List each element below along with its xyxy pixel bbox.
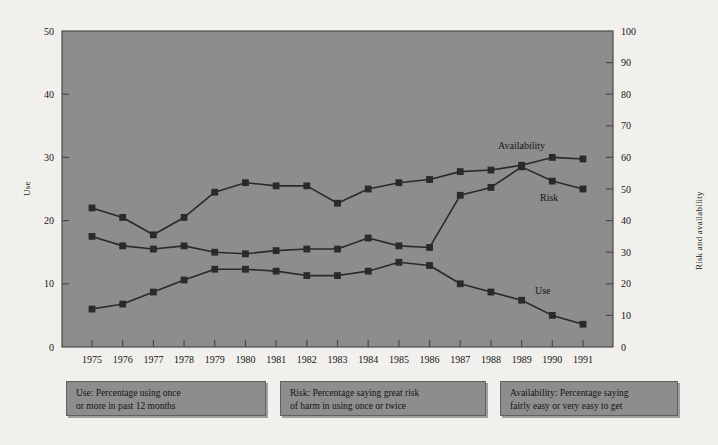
series-label-availability: Availability bbox=[498, 140, 545, 151]
left-axis-title: Use bbox=[22, 181, 32, 196]
svg-text:90: 90 bbox=[621, 57, 631, 68]
chart-figure: 01020304050 0102030405060708090100 19751… bbox=[0, 0, 718, 445]
svg-text:10: 10 bbox=[44, 278, 54, 289]
legend-note-use: Use: Percentage using once or more in pa… bbox=[66, 381, 266, 416]
svg-text:20: 20 bbox=[44, 215, 54, 226]
svg-text:1989: 1989 bbox=[512, 354, 532, 365]
svg-text:0: 0 bbox=[621, 342, 626, 353]
legend-note-availability-line2: fairly easy or very easy to get bbox=[510, 400, 668, 413]
svg-text:1982: 1982 bbox=[297, 354, 317, 365]
legend-note-use-line2: or more in past 12 months bbox=[76, 400, 256, 413]
legend-note-availability-line1: Availability: Percentage saying bbox=[510, 387, 668, 400]
legend-note-risk-line2: of harm in using once or twice bbox=[290, 400, 476, 413]
series-label-use: Use bbox=[535, 285, 551, 296]
svg-text:30: 30 bbox=[44, 152, 54, 163]
legend-note-risk-line1: Risk: Percentage saying great risk bbox=[290, 387, 476, 400]
right-axis-title: Risk and availability bbox=[694, 191, 704, 270]
svg-text:80: 80 bbox=[621, 89, 631, 100]
svg-text:1988: 1988 bbox=[481, 354, 501, 365]
svg-text:1979: 1979 bbox=[205, 354, 225, 365]
svg-text:40: 40 bbox=[44, 89, 54, 100]
line-chart-plot: 01020304050 0102030405060708090100 19751… bbox=[0, 0, 718, 445]
svg-text:1987: 1987 bbox=[450, 354, 470, 365]
svg-text:40: 40 bbox=[621, 215, 631, 226]
svg-text:30: 30 bbox=[621, 247, 631, 258]
svg-text:1984: 1984 bbox=[358, 354, 378, 365]
legend-note-risk: Risk: Percentage saying great risk of ha… bbox=[280, 381, 486, 416]
svg-text:1975: 1975 bbox=[82, 354, 102, 365]
series-label-risk: Risk bbox=[540, 192, 558, 203]
svg-text:1986: 1986 bbox=[420, 354, 440, 365]
svg-text:0: 0 bbox=[49, 342, 54, 353]
svg-text:1991: 1991 bbox=[573, 354, 593, 365]
svg-text:1983: 1983 bbox=[328, 354, 348, 365]
svg-text:60: 60 bbox=[621, 152, 631, 163]
plot-background bbox=[62, 31, 613, 347]
svg-text:50: 50 bbox=[621, 184, 631, 195]
legend-note-use-line1: Use: Percentage using once bbox=[76, 387, 256, 400]
svg-text:1977: 1977 bbox=[143, 354, 163, 365]
svg-text:1985: 1985 bbox=[389, 354, 409, 365]
svg-text:70: 70 bbox=[621, 120, 631, 131]
svg-text:1981: 1981 bbox=[266, 354, 286, 365]
svg-text:1978: 1978 bbox=[174, 354, 194, 365]
svg-text:1990: 1990 bbox=[542, 354, 562, 365]
svg-text:1980: 1980 bbox=[235, 354, 255, 365]
svg-text:1976: 1976 bbox=[113, 354, 133, 365]
svg-text:10: 10 bbox=[621, 310, 631, 321]
svg-text:50: 50 bbox=[44, 26, 54, 37]
legend-note-availability: Availability: Percentage saying fairly e… bbox=[500, 381, 678, 416]
svg-text:100: 100 bbox=[621, 26, 636, 37]
svg-text:20: 20 bbox=[621, 278, 631, 289]
